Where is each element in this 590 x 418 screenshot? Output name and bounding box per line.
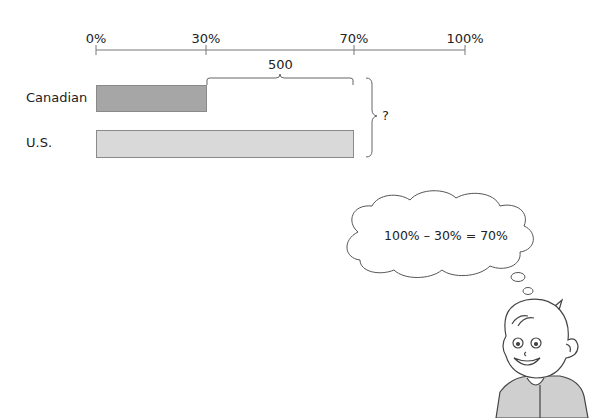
brace-right-label: ? — [382, 108, 389, 123]
brace-top-label: 500 — [268, 57, 293, 72]
bar-label-us: U.S. — [26, 135, 52, 150]
bar-canadian — [96, 85, 207, 112]
boy-cartoon — [496, 299, 588, 418]
bar-label-canadian: Canadian — [26, 90, 87, 105]
axis-tick-30: 30% — [192, 31, 221, 46]
bar-us — [96, 130, 354, 158]
axis-tick-0: 0% — [86, 31, 107, 46]
axis-tick-100: 100% — [446, 31, 483, 46]
diagram-graphics — [0, 0, 590, 418]
axis-tick-70: 70% — [340, 31, 369, 46]
thought-bubble-text: 100% – 30% = 70% — [384, 228, 508, 243]
